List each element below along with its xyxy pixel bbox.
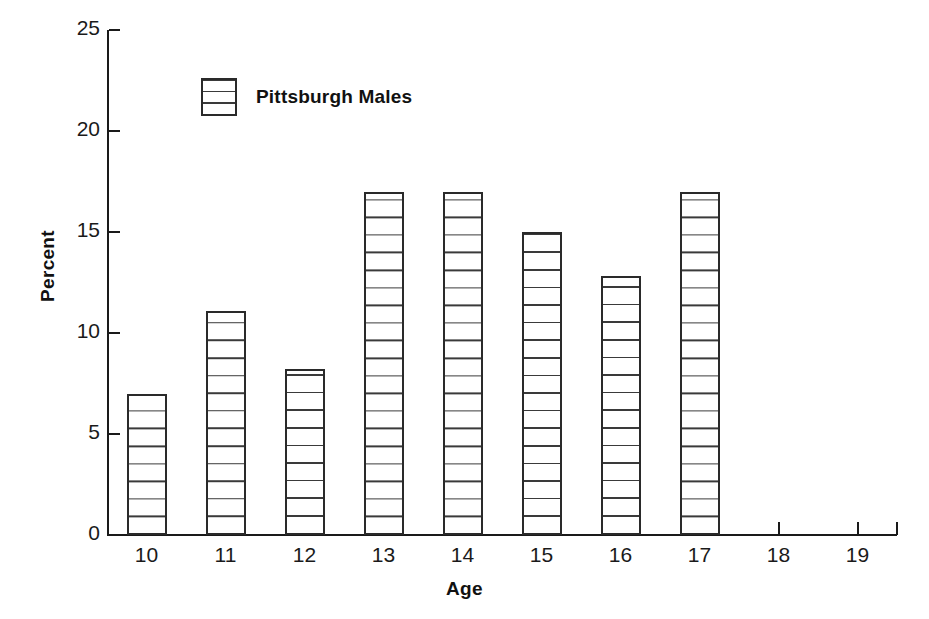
legend-swatch-icon [201,78,237,116]
x-axis-title: Age [0,578,929,600]
bar [522,232,562,535]
bar [443,192,483,535]
y-axis-tick [109,534,120,536]
legend: Pittsburgh Males [201,78,412,116]
y-axis-tick [109,29,120,31]
x-axis-tick-label: 11 [196,543,256,567]
y-axis-tick [109,130,120,132]
y-axis-tick [109,433,120,435]
y-axis-tick-label: 5 [40,420,100,444]
bar [127,394,167,535]
y-axis-tick [109,332,120,334]
y-axis-tick [109,231,120,233]
y-axis-tick-label: 0 [40,521,100,545]
x-axis-tick-label: 18 [749,543,809,567]
bar [285,369,325,535]
y-axis-title: Percent [37,196,59,336]
figure-caption [0,604,929,619]
x-axis-tick-label: 10 [117,543,177,567]
y-axis-tick-label: 20 [40,117,100,141]
bar [206,311,246,535]
x-axis-tick [778,522,780,535]
y-axis-tick-label: 25 [40,16,100,40]
x-axis-tick-label: 19 [828,543,888,567]
bar [364,192,404,535]
x-axis-end-cap [896,522,898,535]
bar [680,192,720,535]
x-axis-tick-label: 15 [512,543,572,567]
bar [601,276,641,535]
x-axis-tick-label: 14 [433,543,493,567]
x-axis-tick-label: 16 [591,543,651,567]
y-axis-line [107,30,109,536]
x-axis-tick-label: 13 [354,543,414,567]
legend-label: Pittsburgh Males [256,86,412,108]
x-axis-tick-label: 12 [275,543,335,567]
bar-chart: 0510152025 10111213141516171819 Percent … [0,0,929,619]
x-axis-tick [857,522,859,535]
x-axis-tick-label: 17 [670,543,730,567]
